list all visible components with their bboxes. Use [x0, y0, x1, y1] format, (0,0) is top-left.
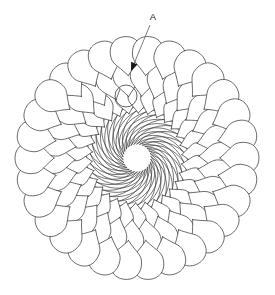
callout-label-a: A — [150, 11, 157, 22]
feather-wreath-diagram: A — [0, 0, 275, 295]
figure-canvas: A — [0, 0, 275, 295]
